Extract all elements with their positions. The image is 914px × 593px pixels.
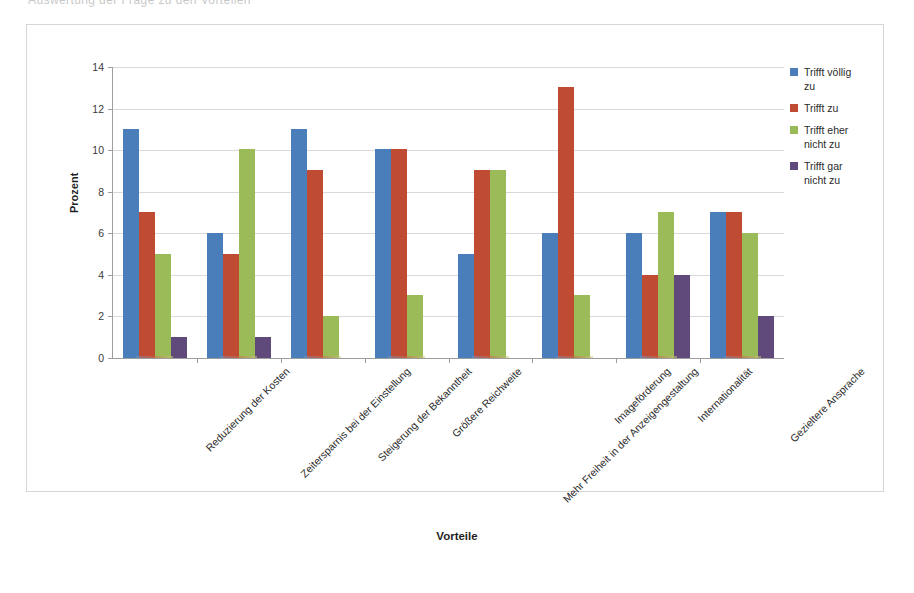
- bar[interactable]: [171, 337, 187, 358]
- category-label: Gezieltere Ansprache: [787, 365, 866, 444]
- baseline-smudge: [388, 356, 425, 358]
- legend-item[interactable]: Trifft eher nicht zu: [790, 123, 878, 151]
- baseline-smudge: [136, 356, 173, 358]
- bar[interactable]: [574, 295, 590, 358]
- bar[interactable]: [642, 275, 658, 358]
- bar[interactable]: [375, 149, 391, 358]
- legend-item[interactable]: Trifft völlig zu: [790, 65, 878, 93]
- bar[interactable]: [558, 87, 574, 358]
- bar-group: [532, 67, 616, 358]
- bar-group: [281, 67, 365, 358]
- x-axis-title: Vorteile: [0, 530, 914, 542]
- bar-group: [449, 67, 533, 358]
- y-tick-label-6: 6: [98, 227, 104, 239]
- bar[interactable]: [139, 212, 155, 358]
- bar-group: [365, 67, 449, 358]
- legend-item[interactable]: Trifft gar nicht zu: [790, 159, 878, 187]
- legend-item-label: Trifft völlig zu: [804, 65, 851, 93]
- bar[interactable]: [307, 170, 323, 358]
- bar[interactable]: [207, 233, 223, 358]
- bar[interactable]: [742, 233, 758, 358]
- y-tick-label-0: 0: [98, 352, 104, 364]
- bar[interactable]: [223, 254, 239, 358]
- bar[interactable]: [674, 275, 690, 358]
- baseline-smudge: [724, 356, 761, 358]
- bar[interactable]: [710, 212, 726, 358]
- bar[interactable]: [542, 233, 558, 358]
- legend-item-label: Trifft zu: [804, 101, 838, 115]
- bar-group: [113, 67, 197, 358]
- y-tick-label-10: 10: [92, 144, 104, 156]
- chart-legend: Trifft völlig zuTrifft zuTrifft eher nic…: [790, 65, 878, 195]
- category-label: Mehr Freiheit in der Anzeigengestaltung: [560, 365, 700, 505]
- category-label: Internationalität: [695, 365, 754, 424]
- bar-group: [197, 67, 281, 358]
- legend-swatch-trifft-voellig-zu: [790, 68, 798, 76]
- bar[interactable]: [726, 212, 742, 358]
- bar[interactable]: [391, 149, 407, 358]
- category-label: Reduzierung der Kosten: [203, 365, 292, 454]
- bars-layer: [113, 67, 784, 358]
- legend-swatch-trifft-gar-nicht-zu: [790, 162, 798, 170]
- bar-group: [700, 67, 784, 358]
- legend-swatch-trifft-zu: [790, 104, 798, 112]
- bar[interactable]: [155, 254, 171, 358]
- baseline-smudge: [472, 356, 509, 358]
- baseline-smudge: [556, 356, 593, 358]
- bar[interactable]: [407, 295, 423, 358]
- scan-artifact-top-text: Auswertung der Frage zu den Vorteilen: [28, 0, 448, 9]
- plot-wrapper: 02468101214: [112, 67, 784, 359]
- y-tick-label-4: 4: [98, 269, 104, 281]
- plot-area: 02468101214: [112, 67, 784, 359]
- bar[interactable]: [490, 170, 506, 358]
- baseline-smudge: [640, 356, 677, 358]
- y-tick-label-8: 8: [98, 186, 104, 198]
- bar[interactable]: [658, 212, 674, 358]
- bar[interactable]: [758, 316, 774, 358]
- bar[interactable]: [323, 316, 339, 358]
- bar[interactable]: [458, 254, 474, 358]
- y-axis-title: Prozent: [68, 173, 80, 213]
- legend-item-label: Trifft eher nicht zu: [804, 123, 848, 151]
- bar[interactable]: [239, 149, 255, 358]
- baseline-smudge: [220, 356, 257, 358]
- bar[interactable]: [474, 170, 490, 358]
- legend-item-label: Trifft gar nicht zu: [804, 159, 843, 187]
- legend-item[interactable]: Trifft zu: [790, 101, 878, 115]
- bar[interactable]: [626, 233, 642, 358]
- y-tick-label-2: 2: [98, 310, 104, 322]
- bar-group: [616, 67, 700, 358]
- bar[interactable]: [255, 337, 271, 358]
- category-labels: Reduzierung der KostenZeitersparnis bei …: [112, 359, 784, 509]
- legend-swatch-trifft-eher-nicht-zu: [790, 126, 798, 134]
- bar[interactable]: [123, 129, 139, 358]
- y-tick-label-12: 12: [92, 103, 104, 115]
- chart-frame: Prozent 02468101214 Reduzierung der Kost…: [26, 24, 884, 492]
- y-tick-label-14: 14: [92, 61, 104, 73]
- scan-artifact-text: Auswertung der Frage zu den Vorteilen: [28, 0, 251, 7]
- bar[interactable]: [291, 129, 307, 358]
- category-label: Zeitersparnis bei der Einstellung: [298, 365, 413, 480]
- baseline-smudge: [304, 356, 341, 358]
